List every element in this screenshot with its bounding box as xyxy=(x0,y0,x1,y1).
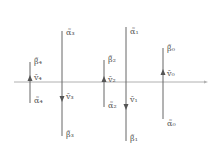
axis-arrowhead-icon xyxy=(204,81,208,84)
arrow-up-icon xyxy=(161,69,166,75)
bottom-label-1: β̃₁ xyxy=(130,135,138,143)
velocity-label-3: ṽ₃ xyxy=(66,93,74,101)
bottom-label-0: α̃₀ xyxy=(167,120,176,128)
bottom-label-2: α̃₂ xyxy=(108,102,117,110)
arrow-up-icon xyxy=(28,75,33,81)
arrow-down-icon xyxy=(124,104,129,110)
velocity-label-4: ṽ₄ xyxy=(34,74,42,82)
top-label-0: β̃₀ xyxy=(167,45,175,53)
top-label-2: β̃₂ xyxy=(108,56,116,64)
velocity-label-0: ṽ₀ xyxy=(167,70,175,78)
velocity-label-1: ṽ₁ xyxy=(130,96,138,104)
bottom-label-4: α̃₄ xyxy=(34,97,43,105)
velocity-label-2: ṽ₂ xyxy=(108,76,116,84)
top-label-1: α̃₁ xyxy=(130,28,139,36)
top-label-4: β̃₄ xyxy=(34,58,42,66)
bottom-label-3: β̃₃ xyxy=(66,131,74,139)
arrow-down-icon xyxy=(60,96,65,102)
arrow-up-icon xyxy=(102,76,107,82)
top-label-3: α̃₃ xyxy=(66,29,75,37)
